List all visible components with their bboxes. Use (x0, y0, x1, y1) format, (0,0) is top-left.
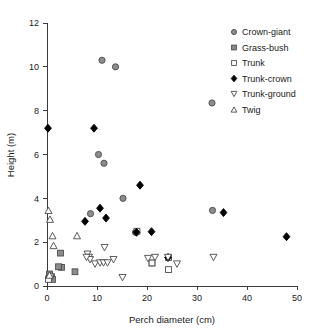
legend-label-crown-giant: Crown-giant (242, 27, 291, 37)
data-point (45, 124, 52, 132)
legend-marker-trunk (232, 61, 237, 66)
data-point (91, 124, 98, 132)
y-tick-label: 2 (34, 237, 39, 247)
data-point (74, 232, 81, 238)
legend-marker-crown-giant (231, 29, 236, 34)
data-point (210, 254, 217, 260)
series-grass-bush (46, 250, 155, 282)
data-point (56, 264, 62, 270)
y-tick-label: 12 (29, 18, 39, 28)
data-point (58, 250, 64, 256)
y-tick-label: 10 (29, 62, 39, 72)
data-point (82, 217, 89, 225)
legend-marker-grass-bush (232, 45, 237, 50)
data-point (166, 267, 172, 273)
data-point (220, 209, 227, 217)
x-tick-label: 20 (142, 293, 152, 303)
y-tick-label: 4 (34, 194, 39, 204)
data-point (87, 211, 93, 217)
data-point (120, 195, 126, 201)
x-tick-label: 40 (242, 293, 252, 303)
legend-label-grass-bush: Grass-bush (242, 43, 289, 53)
scatter-plot-figure: 024681012 01020304050 Perch diameter (cm… (0, 0, 323, 335)
legend-label-trunk-crown: Trunk-crown (242, 74, 292, 84)
x-tick-label: 10 (92, 293, 102, 303)
data-point (119, 274, 126, 280)
y-tick-label: 8 (34, 106, 39, 116)
legend: Crown-giantGrass-bushTrunkTrunk-crownTru… (231, 27, 296, 115)
y-tick-label: 0 (34, 281, 39, 291)
series-crown-giant (87, 57, 215, 235)
data-point (283, 233, 290, 241)
legend-marker-trunk-ground (231, 91, 237, 96)
data-point (174, 261, 181, 267)
y-axis-ticks: 024681012 (29, 18, 47, 291)
data-point (103, 214, 110, 222)
legend-label-twig: Twig (242, 105, 261, 115)
data-point (101, 244, 108, 250)
data-point (112, 64, 118, 70)
data-point (47, 216, 54, 222)
y-tick-label: 6 (34, 150, 39, 160)
plot-canvas: 024681012 01020304050 Perch diameter (cm… (0, 0, 323, 335)
data-point (97, 204, 104, 212)
data-point (95, 151, 101, 157)
x-axis-ticks: 01020304050 (44, 286, 302, 303)
legend-label-trunk: Trunk (242, 58, 265, 68)
x-tick-label: 50 (292, 293, 302, 303)
legend-marker-trunk-crown (231, 75, 237, 82)
x-axis-title: Perch diameter (cm) (129, 314, 215, 325)
series-trunk-crown (45, 124, 290, 261)
legend-label-trunk-ground: Trunk-ground (242, 89, 296, 99)
legend-marker-twig (231, 107, 237, 112)
data-point (209, 100, 215, 106)
data-point (209, 207, 215, 213)
data-point (101, 160, 107, 166)
data-point (99, 57, 105, 63)
data-point (49, 232, 56, 238)
x-tick-label: 0 (44, 293, 49, 303)
data-point (45, 207, 52, 213)
data-point (72, 269, 78, 275)
data-point (50, 242, 57, 248)
data-point (149, 260, 155, 266)
x-tick-label: 30 (192, 293, 202, 303)
data-point (148, 228, 155, 236)
y-axis-title: Height (m) (5, 133, 16, 177)
data-point (137, 181, 144, 189)
